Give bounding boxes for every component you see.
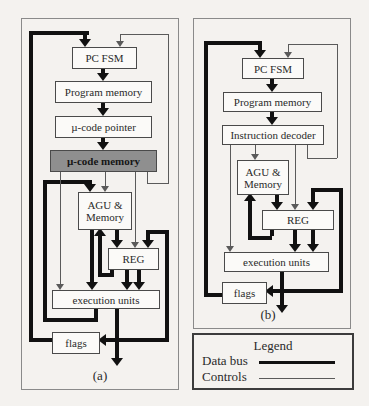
box-b-agu-memory-label: AGU & Memory	[238, 166, 288, 190]
box-a-ucode-memory-label: µ-code memory	[67, 155, 140, 167]
box-b-execution-units-label: execution units	[243, 256, 310, 268]
box-a-execution-units-label: execution units	[73, 294, 140, 306]
box-a-reg-label: REG	[123, 253, 145, 265]
legend-controls-label: Controls	[202, 369, 247, 385]
box-b-pc-fsm: PC FSM	[242, 58, 304, 79]
box-a-ucode-memory: µ-code memory	[50, 150, 157, 172]
box-a-execution-units: execution units	[52, 290, 160, 309]
panel-a-label: (a)	[80, 368, 120, 384]
box-a-program-memory: Program memory	[55, 81, 152, 103]
box-a-ucode-pointer-label: µ-code pointer	[71, 121, 136, 133]
box-b-pc-fsm-label: PC FSM	[254, 63, 292, 75]
box-b-reg: REG	[262, 210, 334, 230]
box-b-flags-label: flags	[234, 287, 255, 299]
box-b-reg-label: REG	[287, 214, 309, 226]
box-b-program-memory: Program memory	[223, 92, 322, 112]
legend-data-bus-label: Data bus	[202, 353, 248, 369]
box-b-instruction-decoder-label: Instruction decoder	[230, 129, 315, 141]
box-b-execution-units: execution units	[224, 252, 329, 272]
panel-b-label: (b)	[248, 307, 288, 323]
box-b-agu-memory: AGU & Memory	[237, 160, 289, 195]
box-a-pc-fsm: PC FSM	[72, 47, 137, 69]
controls-line-sample	[259, 378, 335, 379]
box-a-flags: flags	[52, 332, 100, 354]
box-a-program-memory-label: Program memory	[65, 86, 142, 98]
box-a-reg: REG	[108, 248, 159, 270]
legend: Legend Data bus Controls	[192, 333, 354, 390]
box-a-flags-label: flags	[65, 337, 86, 349]
box-a-ucode-pointer: µ-code pointer	[55, 116, 152, 138]
data-bus-line-sample	[259, 361, 335, 364]
figure-canvas: PC FSM Program memory µ-code pointer µ-c…	[0, 0, 369, 406]
box-b-flags: flags	[222, 282, 267, 304]
box-a-agu-memory-label: AGU & Memory	[79, 199, 131, 223]
box-b-instruction-decoder: Instruction decoder	[222, 125, 324, 145]
legend-title: Legend	[194, 338, 352, 354]
box-b-program-memory-label: Program memory	[234, 96, 311, 108]
box-a-agu-memory: AGU & Memory	[78, 192, 132, 230]
box-a-pc-fsm-label: PC FSM	[85, 52, 123, 64]
